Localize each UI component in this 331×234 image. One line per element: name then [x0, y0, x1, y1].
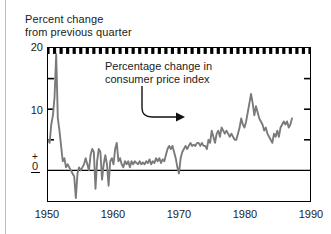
- y-axis-label-20: 20: [19, 41, 43, 53]
- x-axis-label-1980: 1980: [225, 208, 265, 220]
- x-axis-label-1950: 1950: [27, 208, 67, 220]
- annotation-arrow-icon: [136, 84, 196, 126]
- series-annotation-line-1: Percentage change in: [105, 60, 212, 73]
- x-axis-label-1990: 1990: [291, 208, 331, 220]
- top-axis-ticks: [48, 48, 310, 54]
- y-axis-label-zero: + 0: [27, 152, 43, 173]
- x-axis-label-1960: 1960: [93, 208, 133, 220]
- chart-title-line-1: Percent change: [25, 13, 132, 26]
- chart-title-line-2: from previous quarter: [25, 26, 132, 39]
- series-annotation: Percentage change in consumer price inde…: [105, 60, 212, 86]
- y-axis-label-10: 10: [19, 104, 43, 116]
- page-left-rule: [5, 0, 6, 234]
- chart-title: Percent change from previous quarter: [25, 13, 132, 39]
- x-axis-label-1970: 1970: [159, 208, 199, 220]
- figure-container: Percent change from previous quarter 20 …: [0, 0, 331, 234]
- y-axis-zero-value: 0: [31, 161, 40, 173]
